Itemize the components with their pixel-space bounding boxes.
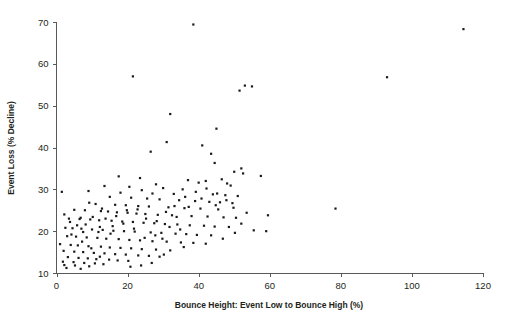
x-axis-title: Bounce Height: Event Low to Bounce High … (175, 300, 364, 310)
data-point (123, 230, 125, 232)
y-tick-label: 30 (38, 184, 49, 195)
data-point (119, 192, 121, 194)
data-point (188, 206, 190, 208)
data-point (184, 196, 186, 198)
data-point (86, 236, 88, 238)
data-point (215, 128, 217, 130)
data-point (100, 246, 102, 248)
data-point (115, 215, 117, 217)
data-point (132, 75, 134, 77)
data-point (141, 189, 143, 191)
data-point (142, 222, 144, 224)
y-tick-label: 40 (38, 142, 49, 153)
data-point (103, 252, 105, 254)
data-point (169, 113, 171, 115)
data-point (76, 224, 78, 226)
data-point (150, 151, 152, 153)
data-point (61, 191, 63, 193)
data-point (216, 192, 218, 194)
data-point (129, 266, 131, 268)
data-point (205, 187, 207, 189)
data-point (158, 256, 160, 258)
data-point (173, 193, 175, 195)
data-point (114, 204, 116, 206)
data-point (195, 191, 197, 193)
data-point (94, 262, 96, 264)
data-point (63, 264, 65, 266)
data-point (157, 214, 159, 216)
data-point (246, 212, 248, 214)
data-point (70, 233, 72, 235)
x-tick-label: 100 (404, 280, 420, 291)
data-point (109, 246, 111, 248)
data-point (68, 218, 70, 220)
data-point (253, 229, 255, 231)
data-point (141, 248, 143, 250)
x-axis-ticks: 020406080100120 (54, 273, 491, 291)
y-tick-label: 20 (38, 226, 49, 237)
data-point (199, 207, 201, 209)
data-point (109, 196, 111, 198)
data-point (97, 231, 99, 233)
data-point (158, 198, 160, 200)
data-point (81, 241, 83, 243)
data-point (87, 190, 89, 192)
data-point (130, 247, 132, 249)
data-point (224, 194, 226, 196)
data-point (121, 220, 123, 222)
data-point (251, 85, 253, 87)
data-point (74, 264, 76, 266)
data-point (128, 186, 130, 188)
data-point (192, 23, 194, 25)
data-point (100, 210, 102, 212)
data-point (96, 237, 98, 239)
data-point (217, 208, 219, 210)
data-point (90, 247, 92, 249)
data-point (93, 252, 95, 254)
data-point (116, 211, 118, 213)
data-point (168, 226, 170, 228)
data-point (125, 204, 127, 206)
data-point (203, 225, 205, 227)
data-point (225, 199, 227, 201)
y-tick-label: 10 (38, 268, 49, 279)
data-point (88, 202, 90, 204)
data-point (126, 212, 128, 214)
data-point (240, 223, 242, 225)
data-point (125, 253, 127, 255)
data-point (66, 235, 68, 237)
data-point (214, 225, 216, 227)
data-point (108, 259, 110, 261)
data-point (151, 240, 153, 242)
data-point (136, 208, 138, 210)
data-point (265, 230, 267, 232)
data-point (128, 239, 130, 241)
data-point (226, 182, 228, 184)
data-point (176, 223, 178, 225)
scatter-plot-figure: 10203040506070 020406080100120 Bounce He… (0, 0, 509, 322)
data-point (189, 224, 191, 226)
data-point (65, 267, 67, 269)
data-point (73, 251, 75, 253)
data-point (132, 221, 134, 223)
data-point (67, 256, 69, 258)
data-point (238, 90, 240, 92)
data-point (88, 265, 90, 267)
data-point (135, 213, 137, 215)
y-axis-title: Event Loss (% Decline) (6, 101, 16, 195)
data-point (72, 261, 74, 263)
data-point (187, 179, 189, 181)
data-point (190, 215, 192, 217)
data-point (139, 177, 141, 179)
data-point (110, 220, 112, 222)
data-point (99, 226, 101, 228)
data-point (117, 259, 119, 261)
data-point (214, 162, 216, 164)
data-point (200, 197, 202, 199)
data-point (221, 178, 223, 180)
data-point (235, 217, 237, 219)
data-point (134, 230, 136, 232)
data-point (62, 261, 64, 263)
data-point (144, 237, 146, 239)
data-point (462, 28, 464, 30)
